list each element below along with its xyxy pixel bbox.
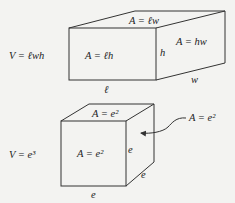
box-side-area-label: A = hw [175,36,207,47]
cube-side-area-callout: A = e² [188,112,216,123]
box-length-label: ℓ [104,84,109,95]
cube-front-area-label: A = e² [76,148,104,159]
box-width-label: w [191,74,198,85]
geometry-diagram: V = ℓwh A = ℓh A = ℓw A = hw h ℓ w V = e… [0,0,235,203]
box-front-area-label: A = ℓh [84,50,113,61]
box-height-label: h [160,47,165,58]
cube-top-area-label: A = e² [91,108,119,119]
cube-volume-label: V = e³ [9,149,36,160]
cube-side-edge-label: e [128,144,133,155]
box-top-area-label: A = ℓw [128,15,159,26]
cube-front-edge-label: e [91,189,96,200]
cube-depth-edge-label: e [141,169,146,180]
callout-arrow-icon [141,118,186,133]
box-volume-label: V = ℓwh [9,50,44,61]
